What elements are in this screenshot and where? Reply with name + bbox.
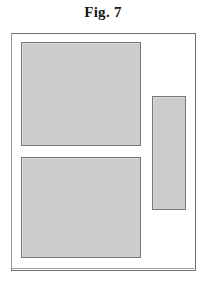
component-block-lower-left (21, 157, 141, 258)
component-block-upper-left (21, 42, 141, 146)
component-block-right-vertical (152, 96, 186, 210)
figure-caption: Fig. 7 (0, 3, 206, 21)
outer-enclosure-frame (11, 33, 196, 271)
figure-page: Fig. 7 (0, 0, 206, 282)
